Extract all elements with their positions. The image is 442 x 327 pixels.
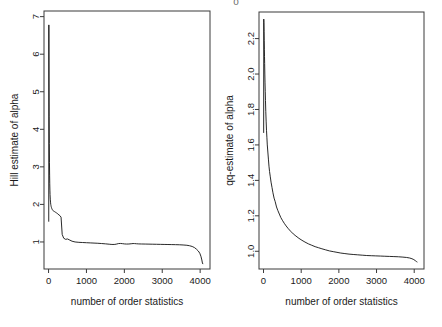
y-tick-label: 1.4 <box>245 174 256 187</box>
qq-plot-panel: 010002000300040001.01.21.41.61.82.02.2nu… <box>221 0 442 327</box>
y-tick-label: 2.2 <box>245 32 256 45</box>
x-tick-label: 1000 <box>291 275 312 286</box>
data-curve <box>264 19 417 262</box>
x-axis-title: number of order statistics <box>71 296 183 307</box>
data-curve <box>49 25 203 264</box>
stray-mark: o <box>233 0 239 7</box>
y-tick-label: 6 <box>30 52 41 57</box>
y-tick-label: 1.6 <box>245 138 256 151</box>
hill-plot-svg: 010002000300040001234567number of order … <box>0 0 221 327</box>
x-tick-label: 4000 <box>404 275 425 286</box>
y-tick-label: 1.0 <box>245 245 256 258</box>
y-tick-label: 1.8 <box>245 103 256 116</box>
y-tick-label: 7 <box>30 14 41 19</box>
qq-plot-svg: 010002000300040001.01.21.41.61.82.02.2nu… <box>221 0 442 327</box>
x-tick-label: 2000 <box>114 275 135 286</box>
x-tick-label: 0 <box>261 275 266 286</box>
plot-frame <box>44 11 210 269</box>
x-tick-label: 1000 <box>76 275 97 286</box>
y-tick-label: 1 <box>30 239 41 244</box>
x-axis-title: number of order statistics <box>285 296 397 307</box>
hill-plot-panel: 010002000300040001234567number of order … <box>0 0 221 327</box>
y-tick-label: 3 <box>30 164 41 169</box>
y-tick-label: 4 <box>30 127 41 132</box>
y-axis-title: Hill estimate of alpha <box>9 93 20 186</box>
x-tick-label: 0 <box>46 275 51 286</box>
y-tick-label: 5 <box>30 89 41 94</box>
x-tick-label: 3000 <box>152 275 173 286</box>
y-axis-title: qq-estimate of alpha <box>224 95 235 186</box>
x-tick-label: 4000 <box>190 275 211 286</box>
plot-frame <box>259 12 424 269</box>
x-tick-label: 3000 <box>366 275 387 286</box>
y-tick-label: 1.2 <box>245 209 256 222</box>
figure-container: 010002000300040001234567number of order … <box>0 0 442 327</box>
y-tick-label: 2.0 <box>245 67 256 80</box>
y-tick-label: 2 <box>30 202 41 207</box>
x-tick-label: 2000 <box>328 275 349 286</box>
